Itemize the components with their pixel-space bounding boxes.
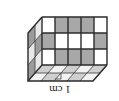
front-face-cell — [42, 33, 55, 49]
rotated-diagram-stage: 1 cm — [0, 0, 119, 101]
front-face-cell — [81, 17, 94, 33]
front-face-cell — [55, 49, 68, 65]
front-face-cell — [68, 33, 81, 49]
cuboid-diagram: 1 cm — [0, 0, 119, 101]
front-face-cell — [55, 17, 68, 33]
front-face-cell — [94, 33, 107, 49]
dimension-label: 1 cm — [49, 84, 71, 96]
front-face-cell — [68, 17, 81, 33]
front-face-cell — [68, 49, 81, 65]
front-face-cell — [42, 17, 55, 33]
front-face-cell — [55, 33, 68, 49]
front-face-cell — [94, 49, 107, 65]
front-face-cell — [42, 49, 55, 65]
front-face-cell — [81, 49, 94, 65]
front-face-cell — [94, 17, 107, 33]
figure-container: 1 cm — [0, 0, 119, 101]
front-face-cell — [81, 33, 94, 49]
front-face-group — [42, 17, 107, 65]
